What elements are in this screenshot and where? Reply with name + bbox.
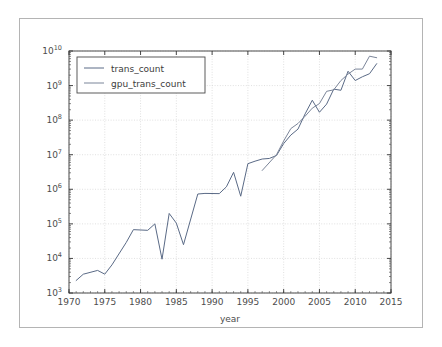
- y-tick-exponent: 6: [58, 182, 62, 190]
- x-tick-label: 1980: [129, 297, 152, 307]
- figure-frame: 1970197519801985199019952000200520102015…: [19, 18, 423, 328]
- x-tick-label: 1975: [93, 297, 116, 307]
- y-tick-label: 104: [46, 251, 62, 263]
- x-tick-label: 2005: [308, 297, 331, 307]
- legend-label-trans-count: trans_count: [111, 64, 165, 74]
- y-tick-exponent: 8: [58, 113, 62, 121]
- y-tick-exponent: 4: [58, 251, 62, 259]
- x-tick-label: 1970: [58, 297, 81, 307]
- y-tick-exponent: 9: [58, 79, 62, 87]
- y-tick-exponent: 3: [58, 286, 62, 294]
- y-tick-exponent: 10: [54, 44, 62, 52]
- legend-label-gpu-trans-count: gpu_trans_count: [111, 79, 186, 89]
- y-tick-label: 107: [46, 148, 62, 160]
- x-tick-label: 1995: [236, 297, 259, 307]
- x-tick-label: 2010: [344, 297, 367, 307]
- y-tick-label: 1010: [42, 44, 62, 56]
- x-tick-label: 2000: [272, 297, 295, 307]
- x-tick-label: 1990: [201, 297, 224, 307]
- x-tick-label: 2015: [380, 297, 403, 307]
- series-line-trans-count: [76, 64, 377, 281]
- x-axis-title: year: [220, 314, 240, 324]
- y-tick-exponent: 7: [58, 148, 62, 156]
- y-tick-label: 108: [46, 113, 62, 125]
- y-tick-label: 106: [46, 182, 62, 194]
- y-tick-label: 109: [46, 79, 62, 91]
- x-tick-label: 1985: [165, 297, 188, 307]
- chart-canvas: 1970197519801985199019952000200520102015…: [20, 19, 424, 329]
- y-tick-label: 105: [46, 217, 62, 229]
- legend[interactable]: trans_countgpu_trans_count: [77, 57, 205, 93]
- y-tick-exponent: 5: [58, 217, 62, 225]
